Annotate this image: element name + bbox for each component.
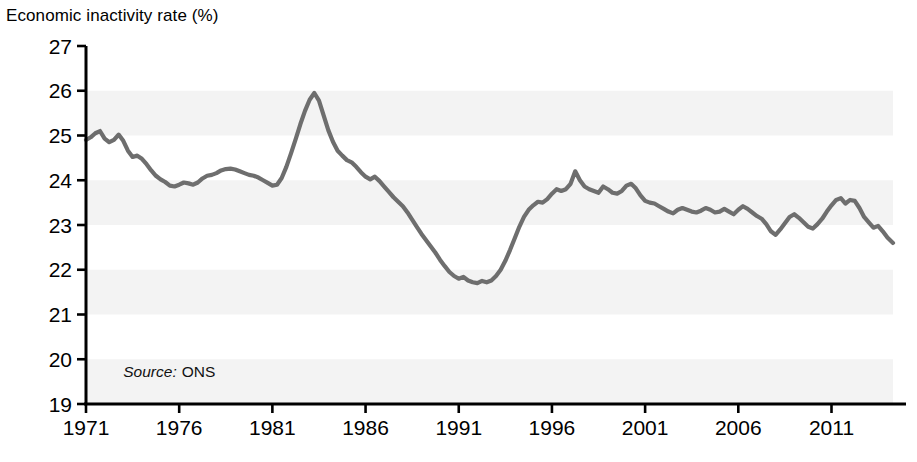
y-tick-label: 23 xyxy=(49,214,72,237)
x-tick-label: 1991 xyxy=(435,416,482,439)
line-chart: 1920212223242526271971197619811986199119… xyxy=(0,0,917,462)
x-tick-label: 2001 xyxy=(622,416,669,439)
x-tick-label: 1986 xyxy=(342,416,389,439)
y-tick-label: 26 xyxy=(49,79,72,102)
y-tick-label: 27 xyxy=(49,35,72,58)
x-tick-label: 1981 xyxy=(249,416,296,439)
source-value: ONS xyxy=(182,363,216,380)
x-tick-label: 2006 xyxy=(715,416,762,439)
y-tick-label: 21 xyxy=(49,303,72,326)
background-band xyxy=(86,270,893,315)
x-tick-label: 1976 xyxy=(156,416,203,439)
source-label: Source: xyxy=(123,363,176,380)
x-tick-label: 1971 xyxy=(63,416,110,439)
x-tick-label: 1996 xyxy=(529,416,576,439)
background-bands xyxy=(86,46,893,404)
y-tick-label: 20 xyxy=(49,348,72,371)
source-annotation: Source:ONS xyxy=(123,363,215,380)
chart-figure: Economic inactivity rate (%) 19202122232… xyxy=(0,0,917,462)
y-tick-label: 25 xyxy=(49,124,72,147)
background-band xyxy=(86,91,893,136)
y-tick-label: 19 xyxy=(49,393,72,416)
x-tick-label: 2011 xyxy=(809,416,854,439)
background-band xyxy=(86,180,893,225)
y-tick-label: 22 xyxy=(49,258,72,281)
y-tick-label: 24 xyxy=(49,169,73,192)
